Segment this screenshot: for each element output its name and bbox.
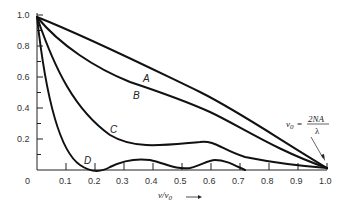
curve-a bbox=[37, 17, 327, 168]
x-tick-label: 0.3 bbox=[116, 176, 129, 186]
x-axis-label: v/v0 bbox=[158, 190, 202, 202]
mtf-chart: 1.0 0.8 0.6 0.4 0.2 0 0.1 0.2 0.3 0.4 0.… bbox=[0, 0, 344, 218]
curve-label-d: D bbox=[84, 155, 91, 166]
x-tick-label: 0.7 bbox=[232, 176, 245, 186]
svg-text:λ: λ bbox=[315, 126, 320, 136]
y-tick-label: 0.6 bbox=[17, 72, 30, 82]
curve-label-b: B bbox=[133, 90, 140, 101]
x-tick-label: 0 bbox=[25, 176, 30, 186]
svg-text:=: = bbox=[297, 119, 302, 129]
y-tick-labels: 1.0 0.8 0.6 0.4 0.2 bbox=[17, 10, 30, 144]
x-tick-label: 0.2 bbox=[88, 176, 101, 186]
curve-d bbox=[37, 17, 245, 171]
x-tick-label: 0.6 bbox=[203, 176, 216, 186]
x-tick-label: 1.0 bbox=[319, 176, 332, 186]
curve-label-a: A bbox=[142, 73, 150, 84]
x-tick-label: 0.4 bbox=[145, 176, 158, 186]
x-tick-label: 0.8 bbox=[261, 176, 274, 186]
curve-b bbox=[37, 17, 327, 168]
y-tick-label: 1.0 bbox=[17, 10, 30, 20]
x-tick-label: 0.5 bbox=[174, 176, 187, 186]
y-tick-label: 0.8 bbox=[17, 41, 30, 51]
y-tick-label: 0.4 bbox=[17, 103, 30, 113]
curve-c bbox=[37, 17, 327, 168]
curve-label-c: C bbox=[110, 124, 118, 135]
x-tick-label: 0.1 bbox=[59, 176, 72, 186]
svg-text:2NA: 2NA bbox=[308, 114, 325, 124]
x-tick-labels: 0 0.1 0.2 0.3 0.4 0.5 0.6 0.7 0.8 0.9 1.… bbox=[25, 176, 332, 186]
svg-text:v/v0: v/v0 bbox=[158, 190, 173, 202]
y-tick-label: 0.2 bbox=[17, 134, 30, 144]
svg-text:v0: v0 bbox=[286, 119, 294, 131]
x-tick-label: 0.9 bbox=[290, 176, 303, 186]
